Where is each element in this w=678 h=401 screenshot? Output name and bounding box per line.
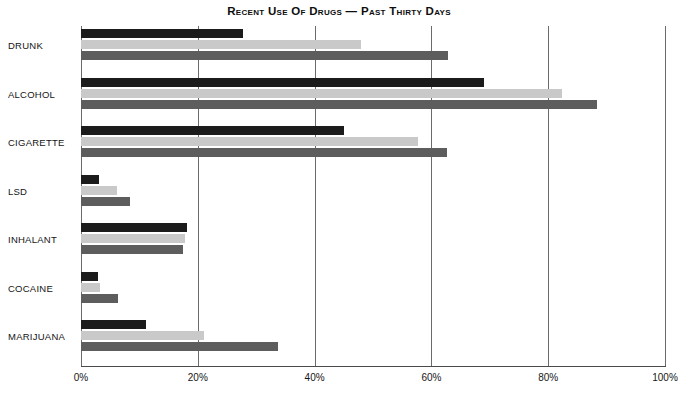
bar-inhalant-series-1 [81,223,187,232]
bar-group-lsd [81,172,665,221]
bar-marijuana-series-1 [81,320,146,329]
bar-lsd-series-3 [81,197,130,206]
category-label-alcohol: ALCOHOL [8,89,78,100]
bar-marijuana-series-3 [81,342,278,351]
bar-track [81,89,665,98]
category-label-cocaine: COCAINE [8,283,78,294]
chart-container: Recent Use Of Drugs — Past Thirty Days D… [0,0,678,401]
bar-track [81,272,665,281]
category-label-inhalant: INHALANT [8,234,78,245]
bar-cigarette-series-2 [81,137,418,146]
bar-track [81,137,665,146]
bar-alcohol-series-2 [81,89,562,98]
bar-lsd-series-2 [81,186,117,195]
chart-title: Recent Use Of Drugs — Past Thirty Days [0,5,678,17]
bar-cocaine-series-2 [81,283,100,292]
x-tick-label-60pct: 60% [421,372,441,383]
bar-track [81,342,665,351]
bar-cigarette-series-1 [81,126,344,135]
x-tick-label-80pct: 80% [538,372,558,383]
x-tick-label-100pct: 100% [652,372,678,383]
bar-track [81,148,665,157]
bar-inhalant-series-2 [81,234,185,243]
bar-track [81,40,665,49]
bar-group-inhalant [81,220,665,269]
bar-group-alcohol [81,75,665,124]
bar-track [81,51,665,60]
bar-cocaine-series-3 [81,294,118,303]
x-tick-label-0pct: 0% [74,372,88,383]
bar-track [81,29,665,38]
bar-drunk-series-3 [81,51,448,60]
bar-track [81,175,665,184]
bar-track [81,186,665,195]
bar-track [81,283,665,292]
bar-cocaine-series-1 [81,272,98,281]
bar-track [81,126,665,135]
bar-alcohol-series-3 [81,100,597,109]
category-label-lsd: LSD [8,186,78,197]
bar-group-cocaine [81,269,665,318]
bar-track [81,234,665,243]
bar-drunk-series-2 [81,40,361,49]
bar-inhalant-series-3 [81,245,183,254]
bar-group-cigarette [81,123,665,172]
bar-group-drunk [81,26,665,75]
bar-marijuana-series-2 [81,331,204,340]
bar-lsd-series-1 [81,175,99,184]
bar-group-marijuana [81,317,665,366]
category-label-drunk: DRUNK [8,40,78,51]
plot-area [81,26,665,366]
bar-track [81,320,665,329]
category-label-marijuana: MARIJUANA [8,331,78,342]
bar-cigarette-series-3 [81,148,447,157]
gridline-100pct [665,26,666,366]
x-tick-label-20pct: 20% [188,372,208,383]
x-axis-line [81,366,666,367]
bar-track [81,331,665,340]
bar-track [81,245,665,254]
bar-track [81,294,665,303]
bar-alcohol-series-1 [81,78,484,87]
bar-track [81,100,665,109]
bar-track [81,197,665,206]
x-tick-label-40pct: 40% [305,372,325,383]
bar-track [81,78,665,87]
category-label-cigarette: CIGARETTE [8,137,78,148]
bar-drunk-series-1 [81,29,243,38]
bar-track [81,223,665,232]
